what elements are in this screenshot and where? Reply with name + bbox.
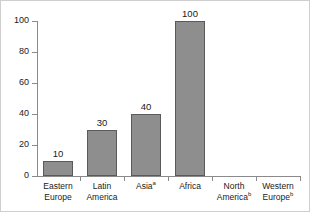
y-axis-tick (32, 21, 37, 22)
bar-asia[interactable] (131, 114, 161, 176)
footnote-marker: a (153, 180, 156, 186)
y-axis-tick-label: 100 (0, 16, 29, 25)
bar-eastern-europe[interactable] (43, 161, 73, 177)
category-label-line1: Latin (93, 181, 111, 191)
footnote-marker: b (290, 191, 293, 197)
y-axis-tick-label: 60 (0, 78, 29, 87)
y-axis-tick-label: 40 (0, 109, 29, 118)
x-axis-line (37, 176, 301, 177)
bar-africa[interactable] (175, 21, 205, 176)
y-axis-tick (32, 114, 37, 115)
category-label-line2: Europeb (247, 192, 309, 203)
y-axis-tick (32, 145, 37, 146)
category-label-line1: North (224, 181, 245, 191)
y-axis-tick (32, 83, 37, 84)
bar-chart-figure: 0 20 40 60 80 100 10 30 40 100 Eastern E… (0, 0, 310, 212)
x-axis-category-label-western-europe: Western Europeb (247, 181, 309, 202)
bar-value-label: 100 (170, 9, 210, 19)
y-axis-tick (32, 52, 37, 53)
y-axis-tick-label: 0 (0, 171, 29, 180)
category-label-line1: Western (262, 181, 294, 191)
category-label-line1: Eastern (43, 181, 72, 191)
y-axis-tick-label: 20 (0, 140, 29, 149)
plot-area: 0 20 40 60 80 100 10 30 40 100 Eastern E… (1, 1, 310, 212)
bar-value-label: 40 (126, 102, 166, 112)
y-axis-tick (32, 176, 37, 177)
y-axis-tick-label: 80 (0, 47, 29, 56)
bar-latin-america[interactable] (87, 130, 117, 177)
category-label-line1: Asiaa (136, 181, 156, 191)
bar-value-label: 30 (82, 118, 122, 128)
bar-value-label: 10 (38, 149, 78, 159)
category-label-line2: America (71, 192, 133, 203)
category-label-line1: Africa (179, 181, 201, 191)
